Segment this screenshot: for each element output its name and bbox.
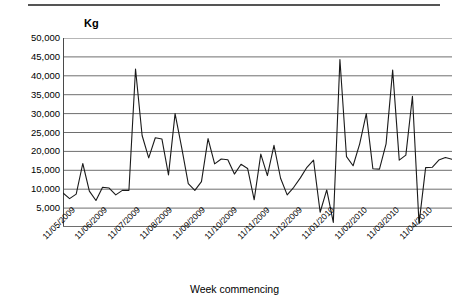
x-tick-label: 11/10/2009 <box>203 205 239 241</box>
x-tick-label: 11/03/2010 <box>365 205 401 241</box>
x-tick-label: 11/09/2009 <box>171 205 207 241</box>
x-tick-label: 11/04/2010 <box>398 205 434 241</box>
x-tick-label: 11/07/2009 <box>106 205 142 241</box>
x-tick-label: 11/12/2009 <box>268 205 304 241</box>
line-chart: Kg 50,00045,00040,00035,00030,00025,0002… <box>0 0 469 306</box>
x-tick-label: 11/02/2010 <box>333 205 369 241</box>
x-tick-label: 11/11/2009 <box>236 206 272 242</box>
x-tick-label: 11/05/2009 <box>41 205 77 241</box>
x-axis-title: Week commencing <box>0 283 469 295</box>
x-tick-label: 11/06/2009 <box>73 205 109 241</box>
x-axis-tick-labels: 11/05/200911/06/200911/07/200911/08/2009… <box>0 0 469 306</box>
x-tick-label: 11/08/2009 <box>138 205 174 241</box>
x-tick-label: 11/01/2010 <box>300 205 336 241</box>
